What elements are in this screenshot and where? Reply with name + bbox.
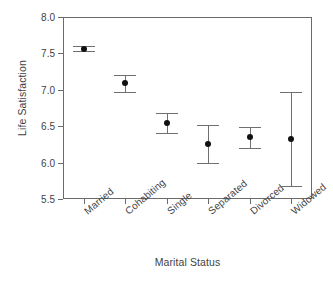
data-point-marker [247,134,253,140]
x-tick-mark [84,199,85,204]
y-tick-label: 6.0 [15,157,55,168]
y-tick-label: 8.0 [15,12,55,23]
error-bar-cap-lower [156,133,178,134]
x-axis-title: Marital Status [63,256,312,268]
chart-figure: Life Satisfaction 5.56.06.57.07.58.0 Mar… [0,0,333,289]
x-tick-mark [208,199,209,204]
error-bar-cap-upper [280,92,302,93]
plot-area [63,17,312,199]
y-tick-label: 7.0 [15,84,55,95]
y-tick-mark [58,126,63,127]
error-bar-cap-lower [280,186,302,187]
y-tick-mark [58,53,63,54]
x-tick-mark [291,199,292,204]
data-point-marker [81,46,87,52]
y-tick-mark [58,90,63,91]
data-point-marker [164,120,170,126]
x-tick-mark [125,199,126,204]
error-bar-cap-upper [239,127,261,128]
error-bar-cap-lower [197,163,219,164]
x-tick-mark [167,199,168,204]
data-point-marker [288,136,294,142]
y-tick-label: 6.5 [15,121,55,132]
error-bar-cap-lower [239,148,261,149]
error-bar-cap-upper [114,75,136,76]
x-tick-mark [250,199,251,204]
y-tick-mark [58,17,63,18]
y-tick-label: 7.5 [15,48,55,59]
error-bar-cap-upper [156,113,178,114]
data-point-marker [205,141,211,147]
error-bar-cap-lower [114,92,136,93]
y-tick-mark [58,163,63,164]
error-bar-cap-upper [197,125,219,126]
y-tick-mark [58,199,63,200]
data-point-marker [122,80,128,86]
y-tick-label: 5.5 [15,194,55,205]
